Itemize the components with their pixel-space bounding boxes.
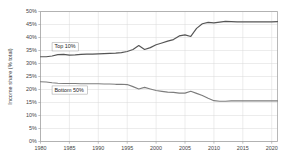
series-label-text: Bottom 50% bbox=[54, 87, 84, 93]
series-label-bottom-50: Bottom 50% bbox=[52, 86, 87, 94]
y-tick-label: 45% bbox=[26, 21, 37, 27]
series-line-top-10 bbox=[41, 21, 278, 56]
x-tick-label: 2000 bbox=[150, 145, 162, 151]
x-tick-label: 1995 bbox=[121, 145, 133, 151]
x-tick-label: 2015 bbox=[237, 145, 249, 151]
y-tick-label: 25% bbox=[26, 73, 37, 79]
y-tick-label: 5% bbox=[29, 125, 37, 131]
y-axis-title-text: Income share (% total) bbox=[7, 48, 13, 104]
x-tick-label: 2005 bbox=[179, 145, 191, 151]
grid-lines bbox=[41, 12, 278, 142]
y-tick-label: 10% bbox=[26, 112, 37, 118]
series-label-top-10: Top 10% bbox=[52, 43, 78, 51]
x-tick-label: 2020 bbox=[266, 145, 278, 151]
x-tick-label: 1985 bbox=[63, 145, 75, 151]
y-tick-label: 15% bbox=[26, 99, 37, 105]
y-tick-label: 50% bbox=[26, 8, 37, 14]
chart-canvas: 0%5%10%15%20%25%30%35%40%45%50% 19801985… bbox=[0, 0, 282, 164]
y-tick-label: 20% bbox=[26, 86, 37, 92]
y-tick-label: 40% bbox=[26, 34, 37, 40]
x-tick-label: 1980 bbox=[35, 145, 47, 151]
y-axis-title: Income share (% total) bbox=[7, 48, 13, 104]
axis-ticks bbox=[38, 12, 271, 144]
income-share-chart: 0%5%10%15%20%25%30%35%40%45%50% 19801985… bbox=[0, 0, 282, 164]
series-label-text: Top 10% bbox=[54, 43, 75, 49]
x-tick-label: 2010 bbox=[208, 145, 220, 151]
x-tick-label: 1990 bbox=[92, 145, 104, 151]
y-tick-label: 35% bbox=[26, 47, 37, 53]
y-axis-tick-labels: 0%5%10%15%20%25%30%35%40%45%50% bbox=[26, 8, 37, 144]
x-axis-tick-labels: 198019851990199520002005201020152020 bbox=[35, 145, 278, 151]
y-tick-label: 0% bbox=[29, 138, 37, 144]
y-tick-label: 30% bbox=[26, 60, 37, 66]
